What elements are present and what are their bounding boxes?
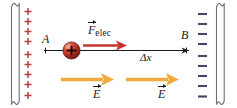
right-plate-group — [217, 3, 225, 104]
diagram-canvas — [0, 0, 237, 108]
plus-sign — [25, 38, 32, 45]
right-plate-body — [217, 3, 225, 104]
displacement-label: Δx — [140, 52, 151, 63]
plus-sign — [25, 8, 32, 15]
field-symbol: E — [158, 88, 165, 100]
electric-field-label-right: E — [158, 88, 165, 100]
plus-sign — [25, 81, 32, 88]
plus-sign — [25, 51, 32, 58]
plus-sign — [25, 61, 32, 68]
point-b-label: B — [181, 29, 188, 41]
plus-sign — [25, 28, 32, 35]
field-symbol: E — [93, 88, 100, 100]
electric-field-label-left: E — [93, 88, 100, 100]
electric-field-arrow-right — [126, 73, 179, 86]
plus-sign — [25, 71, 32, 78]
plus-sign — [25, 18, 32, 25]
force-subscript: elec — [95, 28, 111, 38]
positive-charge-particle — [63, 42, 81, 59]
left-plate-body — [12, 3, 20, 104]
left-plate-group — [12, 3, 20, 104]
electric-field-arrow-left — [61, 73, 114, 86]
point-a-label: A — [42, 33, 49, 45]
right-plate-charges — [198, 14, 207, 97]
force-symbol: F — [88, 24, 95, 36]
electric-force-label: Felec — [88, 24, 111, 38]
physics-diagram-capacitor: A B Δx Felec E E — [0, 0, 237, 108]
electric-force-arrow — [83, 40, 127, 50]
plus-sign — [25, 92, 32, 99]
left-plate-charges — [25, 8, 32, 99]
